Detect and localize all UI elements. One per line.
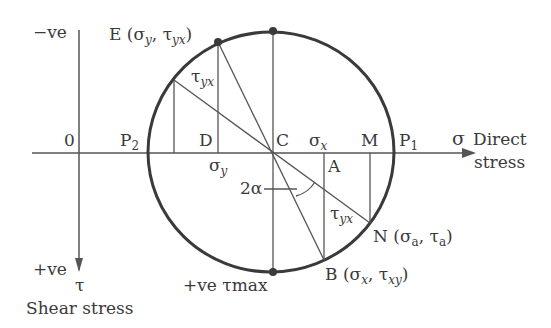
point-D-label: D [199,130,213,150]
tau-max-label: +ve τmax [183,275,268,295]
sigma-y-label: σy [209,155,228,178]
point-P1-label: P1 [399,130,418,153]
point-C-label: C [276,130,289,150]
tau-yx-lower-label: τyx [330,203,353,226]
point-B-label: B (σx, τxy) [325,264,408,287]
sigma-symbol: σ [452,127,465,149]
point-M-label: M [361,130,378,150]
shear-stress-caption: Shear stress [26,298,134,318]
point-top-dot [269,27,277,35]
stress-label: stress [474,152,525,172]
point-bottom-dot [269,268,277,276]
angle-arc [296,182,315,196]
point-A-label: A [327,156,341,176]
two-alpha-label: 2α [240,178,263,198]
tau-yx-upper-label: τyx [191,66,214,89]
sigma-x-label: σx [309,130,328,153]
diameter-N [174,80,370,223]
tau-symbol: τ [75,275,84,295]
point-E-label: E (σy, τyx) [109,24,192,47]
point-N-label: N (σa, τa) [373,226,453,249]
tau-axis-arrow-icon [75,258,83,272]
point-E-dot [214,38,222,46]
mohr-circle-diagram: −ve 0 +ve τ Shear stress σ Direct stress… [0,0,551,328]
tau-pos-label: +ve [33,259,67,279]
origin-label: 0 [64,130,75,150]
direct-label: Direct [473,129,527,149]
point-P2-label: P2 [120,130,139,153]
tau-neg-label: −ve [33,22,67,42]
